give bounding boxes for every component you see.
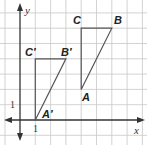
- x-tick-label-1: 1: [33, 123, 38, 134]
- vertex-label-b: B: [114, 14, 122, 26]
- vertex-label-a: A: [81, 91, 90, 103]
- vertex-label-a-prime: A′: [41, 108, 54, 120]
- x-axis-label: x: [133, 124, 139, 136]
- vertex-label-b-prime: B′: [61, 46, 73, 58]
- y-tick-label-1: 1: [10, 99, 15, 110]
- x-axis-arrow-right-icon: [137, 117, 145, 123]
- y-axis-label: y: [24, 4, 30, 16]
- y-axis-arrow-up-icon: [17, 3, 23, 11]
- vertex-label-c: C: [73, 14, 82, 26]
- y-axis-arrow-down-icon: [17, 133, 23, 141]
- vertex-label-c-prime: C′: [25, 46, 37, 58]
- coordinate-plane-diagram: y x 1 1 C B A C′ B′ A′: [0, 0, 147, 145]
